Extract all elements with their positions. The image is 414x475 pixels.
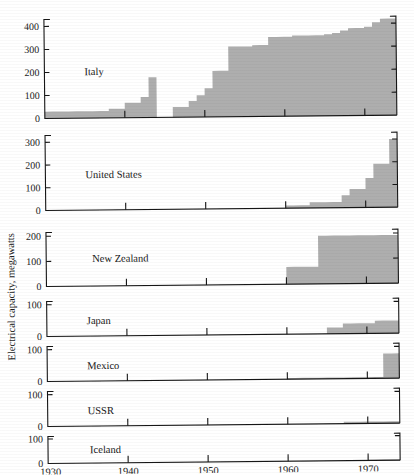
chart-canvas: 0100200300400Italy0100200300United State… xyxy=(0,0,414,475)
x-tick-label: 1950 xyxy=(198,465,219,475)
y-tick-label: 300 xyxy=(25,137,40,148)
panel-united-states: 0100200300United States xyxy=(25,132,398,216)
y-tick-label: 100 xyxy=(27,344,42,355)
y-tick-label: 0 xyxy=(37,331,42,342)
y-tick-label: 100 xyxy=(26,256,41,267)
x-tick-label: 1940 xyxy=(118,466,139,475)
panel-mexico: 0100Mexico xyxy=(27,341,399,387)
y-tick-label: 0 xyxy=(38,421,43,432)
panel-label-mexico: Mexico xyxy=(87,360,119,371)
y-tick-label: 100 xyxy=(27,299,42,310)
y-tick-label: 0 xyxy=(36,281,41,292)
y-tick-label: 400 xyxy=(24,21,39,32)
y-tick-label: 200 xyxy=(24,67,39,78)
y-tick-label: 0 xyxy=(35,113,40,124)
y-tick-label: 100 xyxy=(28,433,43,444)
x-tick-label: 1970 xyxy=(358,463,379,474)
y-tick-label: 200 xyxy=(25,160,40,171)
axis-frame-right xyxy=(393,388,399,423)
y-tick-label: 0 xyxy=(36,205,41,216)
panel-japan: 0100Japan xyxy=(27,296,399,342)
y-tick-label: 100 xyxy=(25,90,40,101)
y-tick-label: 200 xyxy=(26,231,41,242)
panel-label-japan: Japan xyxy=(87,315,112,326)
panel-label-iceland: Iceland xyxy=(90,444,122,455)
panel-iceland: 0100Iceland xyxy=(28,430,400,469)
y-tick-label: 0 xyxy=(37,376,42,387)
panel-new-zealand: 0100200New Zealand xyxy=(26,227,399,292)
y-tick-label: 100 xyxy=(25,182,40,193)
panel-italy: 0100200300400Italy xyxy=(24,16,397,124)
y-axis-title: Electrical capacity, megawatts xyxy=(5,233,17,360)
axis-frame-right xyxy=(394,433,400,460)
x-tick-label: 1960 xyxy=(278,464,299,475)
panel-label-united-states: United States xyxy=(85,169,141,181)
y-tick-label: 300 xyxy=(24,44,39,55)
panel-label-ussr: USSR xyxy=(88,405,114,416)
x-tick-label: 1930 xyxy=(40,466,61,475)
panel-ussr: 0100USSR xyxy=(27,386,399,432)
panel-label-new-zealand: New Zealand xyxy=(92,253,149,265)
panel-label-italy: Italy xyxy=(84,66,104,77)
y-tick-label: 100 xyxy=(27,389,42,400)
